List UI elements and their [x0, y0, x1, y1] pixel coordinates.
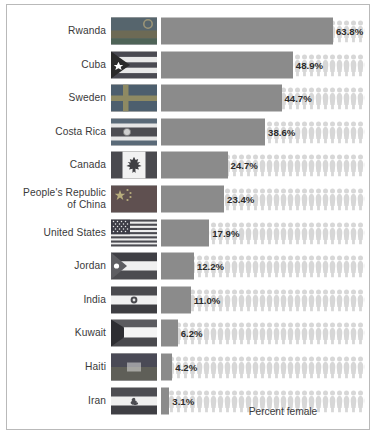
person-icon — [238, 254, 245, 278]
person-pictogram-strip — [161, 288, 365, 312]
person-icon — [336, 53, 343, 77]
person-icon — [329, 254, 336, 278]
flag-india-icon — [111, 286, 157, 313]
person-icon — [280, 221, 287, 245]
person-icon — [364, 288, 365, 312]
person-icon — [245, 221, 252, 245]
chart-row: United States 17.9% — [7, 218, 369, 248]
person-icon — [308, 288, 315, 312]
person-icon — [238, 355, 245, 379]
person-icon — [336, 187, 343, 211]
flag-sweden-icon — [111, 85, 157, 112]
person-icon — [336, 120, 343, 144]
flag-canada-icon — [111, 152, 157, 179]
person-icon — [252, 288, 259, 312]
country-label: Sweden — [7, 92, 106, 104]
person-icon — [350, 288, 357, 312]
person-icon — [315, 153, 322, 177]
person-icon — [294, 355, 301, 379]
person-icon — [259, 288, 266, 312]
person-icon — [336, 86, 343, 110]
person-icon — [259, 187, 266, 211]
flag-jordan-icon — [111, 253, 157, 280]
flag-iran-icon — [111, 387, 157, 414]
bar — [161, 18, 333, 45]
person-icon — [273, 254, 280, 278]
bar-value-label: 38.6% — [268, 126, 295, 137]
person-icon — [364, 153, 365, 177]
person-icon — [301, 221, 308, 245]
person-icon — [364, 120, 365, 144]
person-icon — [217, 321, 224, 345]
bar-value-label: 63.8% — [336, 26, 363, 37]
person-icon — [266, 288, 273, 312]
person-icon — [287, 254, 294, 278]
person-icon — [322, 187, 329, 211]
bar — [161, 354, 172, 381]
country-label-line: Sweden — [7, 92, 106, 104]
bar — [161, 51, 293, 78]
person-icon — [315, 86, 322, 110]
person-icon — [266, 321, 273, 345]
person-icon — [231, 355, 238, 379]
country-label: Jordan — [7, 260, 106, 272]
bar-value-label: 6.2% — [181, 328, 203, 339]
person-icon — [266, 187, 273, 211]
person-icon — [308, 153, 315, 177]
bar-value-label: 3.1% — [172, 395, 194, 406]
person-icon — [350, 86, 357, 110]
bar — [161, 118, 265, 145]
person-icon — [357, 187, 364, 211]
person-icon — [287, 221, 294, 245]
person-icon — [364, 321, 365, 345]
person-icon — [357, 120, 364, 144]
person-icon — [322, 53, 329, 77]
person-icon — [329, 53, 336, 77]
person-icon — [336, 355, 343, 379]
country-label: India — [7, 294, 106, 306]
person-icon — [280, 288, 287, 312]
country-label-line: United States — [7, 227, 106, 239]
person-icon — [364, 86, 365, 110]
person-icon — [301, 321, 308, 345]
person-icon — [343, 321, 350, 345]
flag-rwanda-icon — [111, 18, 157, 45]
flag-kuwait-icon — [111, 320, 157, 347]
person-icon — [364, 187, 365, 211]
person-icon — [301, 120, 308, 144]
person-icon — [301, 187, 308, 211]
country-label-line: Kuwait — [7, 328, 106, 340]
country-label-line: Rwanda — [7, 25, 106, 37]
country-label-line: Haiti — [7, 361, 106, 373]
chart-figure: Rwanda 63.8%Cuba 48.9%Sweden 44.7%Costa … — [6, 4, 370, 430]
person-icon — [350, 355, 357, 379]
person-icon — [315, 120, 322, 144]
person-icon — [357, 321, 364, 345]
person-icon — [357, 53, 364, 77]
country-label: People's Republicof China — [7, 187, 106, 210]
person-icon — [224, 321, 231, 345]
person-icon — [266, 153, 273, 177]
bar-value-label: 17.9% — [212, 227, 239, 238]
person-icon — [287, 355, 294, 379]
person-icon — [287, 288, 294, 312]
person-icon — [301, 288, 308, 312]
person-icon — [322, 321, 329, 345]
country-label-line: Costa Rica — [7, 126, 106, 138]
person-icon — [259, 221, 266, 245]
person-icon — [259, 355, 266, 379]
bar — [161, 85, 282, 112]
person-icon — [266, 254, 273, 278]
country-label: Iran — [7, 395, 106, 407]
person-icon — [322, 355, 329, 379]
person-icon — [343, 355, 350, 379]
bar — [161, 320, 178, 347]
person-icon — [350, 120, 357, 144]
country-label-line: People's Republic — [7, 187, 106, 199]
person-icon — [322, 120, 329, 144]
x-axis-title: Percent female — [203, 406, 363, 417]
person-icon — [231, 254, 238, 278]
country-label: Rwanda — [7, 25, 106, 37]
bar-value-label: 44.7% — [285, 93, 312, 104]
person-icon — [287, 187, 294, 211]
